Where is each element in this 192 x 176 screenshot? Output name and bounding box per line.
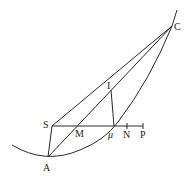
label-m: M <box>75 128 84 139</box>
label-i: I <box>107 80 110 91</box>
label-mu: μ <box>107 129 113 140</box>
label-p: P <box>140 129 146 140</box>
segment-sa <box>48 126 52 157</box>
label-a: A <box>43 162 51 173</box>
label-c: C <box>174 21 181 32</box>
parabola-diagram: C S A M I μ N P <box>0 0 192 176</box>
label-s: S <box>43 119 49 130</box>
label-n: N <box>123 129 130 140</box>
segment-sc <box>52 26 172 126</box>
parabola-curve <box>12 10 177 156</box>
segment-i-mu <box>111 90 114 126</box>
